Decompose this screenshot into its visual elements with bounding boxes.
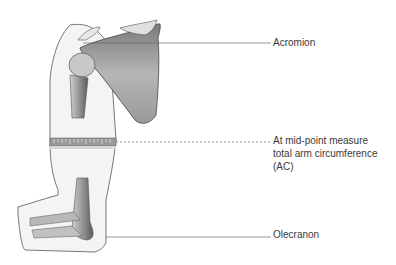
measuring-tape <box>50 138 116 149</box>
arm-illustration <box>0 0 396 265</box>
olecranon-label: Olecranon <box>273 228 319 241</box>
acromion-label: Acromion <box>273 36 315 49</box>
ac-label-line-1: At mid-point measure <box>273 134 377 147</box>
ac-label-line-2: total arm circumference <box>273 147 377 160</box>
ac-label-line-3: (AC) <box>273 160 377 173</box>
arm-circumference-label: At mid-point measure total arm circumfer… <box>273 134 377 173</box>
